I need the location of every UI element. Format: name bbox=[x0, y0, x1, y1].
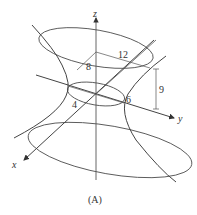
dim-label-9: 9 bbox=[159, 84, 164, 95]
x-axis bbox=[24, 40, 154, 160]
dim-label-12: 12 bbox=[118, 49, 128, 60]
dim-label-4: 4 bbox=[72, 99, 77, 110]
x-axis-label: x bbox=[11, 159, 17, 170]
dim-label-6: 6 bbox=[126, 94, 131, 105]
y-axis-label: y bbox=[177, 113, 183, 124]
y-axis bbox=[36, 75, 174, 118]
figure-caption: (A) bbox=[88, 194, 102, 206]
left-hyperbola-curve bbox=[14, 25, 68, 138]
z-axis-label: z bbox=[92, 8, 97, 19]
dim-label-8: 8 bbox=[86, 61, 91, 72]
hyperboloid-diagram: z y x 8 12 9 6 4 (A) bbox=[0, 0, 197, 215]
right-hyperbola-curve bbox=[124, 56, 176, 182]
